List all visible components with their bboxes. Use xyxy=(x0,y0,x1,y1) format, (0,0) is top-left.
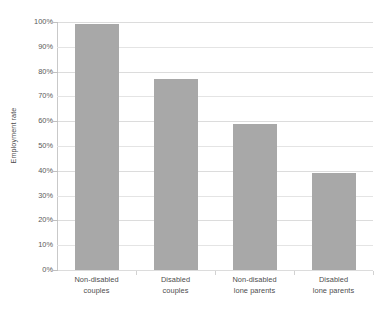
y-axis-tick-label: 90% xyxy=(11,43,53,51)
x-axis-tick-label: Non-disabledlone parents xyxy=(215,275,294,296)
x-axis-tick xyxy=(373,271,374,275)
x-axis-tick-label-line: lone parents xyxy=(294,286,373,297)
y-axis-tick-label: 20% xyxy=(11,216,53,224)
x-axis-tick-label-line: Non-disabled xyxy=(57,275,136,286)
x-axis-tick-label-line: couples xyxy=(57,286,136,297)
y-axis-tick xyxy=(53,220,58,221)
bar[interactable] xyxy=(154,79,198,270)
x-axis-tick-label: Disabledlone parents xyxy=(294,275,373,296)
x-axis-tick-label-line: Disabled xyxy=(136,275,215,286)
x-axis-tick-label: Disabledcouples xyxy=(136,275,215,296)
y-axis-tick-label: 60% xyxy=(11,117,53,125)
y-axis-tick-label: 0% xyxy=(11,266,53,274)
x-axis-tick-labels: Non-disabledcouplesDisabledcouplesNon-di… xyxy=(57,275,373,305)
x-axis-tick-label-line: Disabled xyxy=(294,275,373,286)
cropped-title-remnant xyxy=(58,0,258,2)
y-axis-tick-label: 80% xyxy=(11,68,53,76)
bar-chart: Employment rate 0%10%20%30%40%50%60%70%8… xyxy=(0,0,377,312)
y-axis-tick-labels: 0%10%20%30%40%50%60%70%80%90%100% xyxy=(9,22,53,270)
gridline xyxy=(57,22,373,23)
y-axis-tick xyxy=(53,270,58,271)
y-axis-tick-label: 10% xyxy=(11,241,53,249)
bar[interactable] xyxy=(312,173,356,270)
y-axis-tick-label: 30% xyxy=(11,192,53,200)
y-axis-tick xyxy=(53,171,58,172)
y-axis-tick-label: 40% xyxy=(11,167,53,175)
y-axis-tick xyxy=(53,121,58,122)
x-axis-tick-label: Non-disabledcouples xyxy=(57,275,136,296)
y-axis-tick xyxy=(53,22,58,23)
x-axis-tick-label-line: couples xyxy=(136,286,215,297)
plot-area xyxy=(57,22,373,270)
y-axis-tick-label: 70% xyxy=(11,92,53,100)
y-axis-tick xyxy=(53,72,58,73)
y-axis-tick-label: 50% xyxy=(11,142,53,150)
y-axis-tick-label: 100% xyxy=(11,18,53,26)
bar[interactable] xyxy=(233,124,277,270)
x-axis-tick-label-line: lone parents xyxy=(215,286,294,297)
bar[interactable] xyxy=(75,24,119,270)
x-axis-tick-label-line: Non-disabled xyxy=(215,275,294,286)
